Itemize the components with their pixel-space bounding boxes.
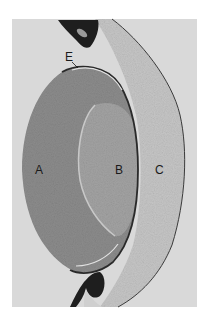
micrograph-image bbox=[0, 0, 205, 323]
label-c: C bbox=[155, 164, 164, 176]
micrograph-figure: A B C E bbox=[0, 0, 205, 323]
label-e: E bbox=[65, 51, 73, 63]
label-a: A bbox=[35, 164, 43, 176]
label-b: B bbox=[115, 164, 123, 176]
